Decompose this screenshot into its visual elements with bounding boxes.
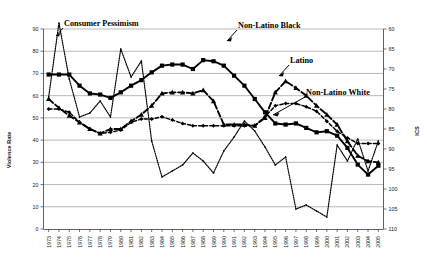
data-point: [88, 91, 92, 95]
data-point: [129, 84, 133, 88]
data-point: [377, 140, 379, 142]
x-tick-label: 1978: [97, 236, 103, 248]
data-point: [273, 121, 277, 125]
data-point: [274, 164, 276, 166]
x-tick-label: 1991: [231, 236, 237, 248]
annotation-non-latino-white: Non-Latino White: [306, 88, 370, 97]
data-point: [119, 90, 123, 94]
data-point: [47, 72, 51, 76]
data-point: [150, 70, 154, 74]
data-point: [191, 67, 195, 71]
y-tick-label: 0: [36, 226, 39, 232]
data-point: [335, 134, 339, 138]
data-point: [161, 176, 163, 178]
data-point: [57, 72, 61, 76]
data-point: [366, 172, 370, 176]
data-point: [108, 96, 112, 100]
x-tick-label: 2000: [324, 236, 330, 248]
x-tick-label: 1984: [159, 236, 165, 248]
x-tick-label: 1986: [180, 236, 186, 248]
x-tick-label: 2002: [344, 236, 350, 248]
y2-tick-label: 65: [389, 46, 395, 52]
x-tick-label: 1980: [118, 236, 124, 248]
data-point: [171, 170, 173, 172]
y2-tick-label: 100: [389, 186, 398, 192]
x-tick-label: 1977: [87, 236, 93, 248]
data-point: [48, 96, 50, 98]
x-tick-label: 1982: [138, 236, 144, 248]
annotation-consumer-pessimism: Consumer Pessimism: [64, 19, 139, 28]
data-point: [139, 78, 143, 82]
data-point: [110, 116, 112, 118]
data-point: [294, 121, 298, 125]
data-point: [130, 76, 132, 78]
data-point: [58, 22, 60, 24]
annotation-latino: Latino: [290, 56, 313, 65]
x-tick-label: 2004: [365, 236, 371, 248]
data-point: [336, 144, 338, 146]
data-point: [347, 160, 349, 162]
y2-tick-label: 70: [389, 66, 395, 72]
y2-tick-label: 85: [389, 126, 395, 132]
data-point: [253, 97, 257, 101]
y2-tick-label: 105: [389, 206, 398, 212]
x-tick-label: 1974: [56, 236, 62, 248]
data-point: [180, 62, 184, 66]
data-point: [314, 130, 318, 134]
y-tick-label: 50: [33, 115, 39, 121]
data-point: [68, 78, 70, 80]
data-point: [316, 210, 318, 212]
data-point: [244, 120, 246, 122]
data-point: [242, 84, 246, 88]
data-point: [284, 122, 288, 126]
data-point: [160, 64, 164, 68]
data-point: [77, 84, 81, 88]
data-point: [356, 162, 360, 166]
data-point: [357, 138, 359, 140]
x-tick-label: 1988: [200, 236, 206, 248]
y2-tick-label: 95: [389, 166, 395, 172]
y2-axis-title: ICS: [414, 126, 420, 136]
data-point: [367, 170, 369, 172]
annotation-non-latino-black: Non-Latino Black: [238, 21, 301, 30]
data-point: [98, 92, 102, 96]
x-tick-label: 1976: [77, 236, 83, 248]
data-point: [233, 136, 235, 138]
x-tick-label: 1989: [211, 236, 217, 248]
x-tick-label: 1987: [190, 236, 196, 248]
y2-tick-label: 60: [389, 26, 395, 32]
data-point: [305, 204, 307, 206]
x-tick-label: 1997: [293, 236, 299, 248]
x-tick-label: 1979: [107, 236, 113, 248]
x-tick-label: 2005: [375, 236, 381, 248]
data-point: [99, 100, 101, 102]
y-tick-label: 60: [33, 93, 39, 99]
data-point: [79, 116, 81, 118]
data-point: [326, 216, 328, 218]
violence-rate-ics-line-chart: 0102030405060708090 60657075808590951001…: [0, 0, 427, 265]
data-point: [213, 172, 215, 174]
x-tick-label: 1973: [46, 236, 52, 248]
x-tick-label: 1995: [272, 236, 278, 248]
y2-tick-label: 90: [389, 146, 395, 152]
x-tick-label: 1993: [252, 236, 258, 248]
data-point: [295, 208, 297, 210]
x-tick-label: 1983: [149, 236, 155, 248]
data-point: [182, 164, 184, 166]
data-point: [192, 152, 194, 154]
y-axis-title: Violence Rate: [6, 132, 12, 169]
x-tick-label: 1990: [221, 236, 227, 248]
x-tick-label: 1999: [314, 236, 320, 248]
data-point: [304, 126, 308, 130]
data-point: [201, 58, 205, 62]
y2-tick-label: 80: [389, 106, 395, 112]
y-tick-label: 10: [33, 204, 39, 210]
x-tick-label: 1992: [241, 236, 247, 248]
y-tick-label: 90: [33, 26, 39, 32]
data-point: [151, 140, 153, 142]
data-point: [202, 160, 204, 162]
x-tick-label: 1975: [66, 236, 72, 248]
data-point: [345, 146, 349, 150]
y-tick-label: 80: [33, 48, 39, 54]
y-tick-label: 20: [33, 182, 39, 188]
